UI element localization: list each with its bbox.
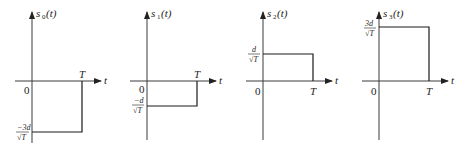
signal-waveforms-diagram: s 0 (t) t T 0 −3d √T s 1 (t) t T 0 −d √T… (0, 0, 466, 149)
panel-s3: s 3 (t) t T 0 3d √T (362, 7, 455, 140)
origin-label: 0 (255, 85, 261, 97)
title-arg: (t) (393, 7, 404, 20)
level-denominator: √T (249, 55, 258, 64)
level-numerator: −d (134, 96, 144, 105)
T-label: T (79, 68, 86, 80)
t-axis-label: t (451, 74, 455, 86)
origin-label: 0 (139, 83, 145, 95)
origin-label: 0 (371, 85, 377, 97)
level-numerator: 3d (364, 19, 374, 28)
panel-title: s (36, 7, 40, 19)
title-arg: (t) (161, 7, 172, 20)
t-axis-label: t (335, 74, 339, 86)
level-denominator: √T (365, 29, 374, 38)
panel-s1: s 1 (t) t T 0 −d √T (130, 7, 223, 140)
title-arg: (t) (277, 7, 288, 20)
panel-title: s (267, 7, 271, 19)
T-label: T (194, 68, 201, 80)
panel-title: s (383, 7, 387, 19)
signal-s0 (32, 81, 82, 132)
panel-s0: s 0 (t) t T 0 −3d √T (15, 7, 108, 143)
level-numerator: d (252, 45, 257, 54)
t-axis-label: t (219, 74, 223, 86)
origin-label: 0 (24, 84, 30, 96)
level-numerator: −3d (17, 123, 31, 132)
level-denominator: √T (133, 106, 142, 115)
t-axis-label: t (104, 74, 108, 86)
panel-s2: s 2 (t) t T 0 d √T (246, 7, 339, 140)
T-label: T (310, 85, 317, 97)
signal-s1 (147, 81, 197, 106)
T-label: T (426, 85, 433, 97)
title-arg: (t) (46, 7, 57, 20)
level-denominator: √T (17, 133, 26, 142)
panel-title: s (151, 7, 155, 19)
signal-s3 (379, 27, 429, 81)
signal-s2 (263, 54, 313, 81)
